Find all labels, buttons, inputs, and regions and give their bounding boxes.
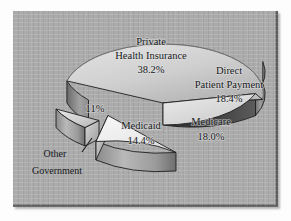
pie-chart: Private Health Insurance 38.2% Direct Pa… bbox=[0, 0, 291, 221]
label-medicaid: Medicaid bbox=[121, 120, 161, 131]
label-direct-patient-payment-line1: Direct bbox=[216, 65, 242, 76]
label-other-government-line2: Government bbox=[32, 165, 82, 176]
figure-root: Private Health Insurance 38.2% Direct Pa… bbox=[0, 0, 291, 221]
label-medicare: Medicare bbox=[191, 116, 231, 127]
value-direct-patient-payment: 18.4% bbox=[215, 93, 242, 104]
value-private-health-insurance: 38.2% bbox=[137, 64, 164, 75]
value-medicare: 18.0% bbox=[197, 131, 224, 142]
value-other-government: 11% bbox=[86, 103, 105, 114]
label-private-health-insurance-line1: Private bbox=[136, 36, 166, 47]
label-direct-patient-payment-line2: Patient Payment bbox=[195, 79, 264, 90]
label-other-government-line1: Other bbox=[44, 148, 67, 159]
value-medicaid: 14.4% bbox=[127, 135, 154, 146]
label-private-health-insurance-line2: Health Insurance bbox=[115, 50, 187, 61]
